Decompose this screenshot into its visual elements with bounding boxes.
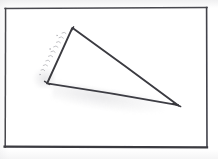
note-stroke-2 [59, 37, 63, 38]
note-stroke-6 [48, 55, 52, 56]
note-stroke-8 [43, 64, 47, 65]
note-stroke-9 [41, 69, 45, 70]
triangle-hypotenuse-edge [73, 28, 179, 105]
note-stroke-1 [62, 32, 66, 33]
note-stroke-4 [54, 46, 58, 47]
note-stroke-3 [56, 41, 60, 42]
note-stroke-7 [46, 60, 50, 61]
scanned-figure-page [0, 0, 218, 159]
figure-border [5, 8, 207, 148]
border-bottom-line [5, 147, 207, 148]
note-stroke-5 [51, 51, 55, 52]
note-stroke-11 [57, 35, 58, 36]
figure-canvas [0, 0, 218, 159]
apex-overshoot-mark [71, 27, 73, 31]
border-top-line [5, 8, 207, 9]
triangle-base-edge [47, 83, 178, 105]
triangle-figure [45, 27, 181, 107]
note-stroke-12 [50, 49, 51, 50]
note-stroke-10 [40, 74, 41, 75]
handwritten-note-strokes [40, 32, 67, 75]
